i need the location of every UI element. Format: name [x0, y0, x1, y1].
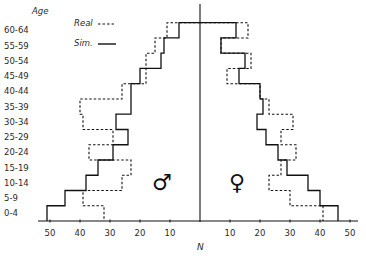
age-group-label: 60-64: [4, 25, 29, 35]
legend-real-label: Real: [74, 18, 93, 28]
age-group-label: 45-49: [4, 71, 29, 81]
age-group-label: 0-4: [4, 208, 18, 218]
age-group-label: 30-34: [4, 117, 29, 127]
age-group-label: 5-9: [4, 193, 18, 203]
age-group-label: 55-59: [4, 41, 29, 51]
age-group-label: 50-54: [4, 56, 29, 66]
age-group-label: 20-24: [4, 147, 29, 157]
age-group-label: 25-29: [4, 132, 29, 142]
female-symbol-icon: ♀: [229, 170, 245, 195]
x-axis-title: N: [197, 242, 204, 252]
x-tick-label: 30: [105, 228, 116, 238]
male-symbol-icon: ♂: [152, 170, 172, 195]
x-tick-label: 40: [75, 228, 86, 238]
female-real-step-line: [200, 23, 323, 221]
x-tick-label: 10: [225, 228, 236, 238]
male-sim-step-line: [47, 23, 200, 221]
x-tick-label: 30: [285, 228, 296, 238]
x-axis-ticks: 50403020101020304050: [45, 220, 356, 239]
x-tick-label: 20: [135, 228, 146, 238]
legend: Real Sim.: [74, 18, 116, 48]
age-group-label: 40-44: [4, 86, 29, 96]
x-tick-label: 10: [165, 228, 176, 238]
male-real-step-line: [80, 23, 200, 221]
population-pyramid-chart: Age 0-45-910-1415-1920-2425-2930-3435-39…: [0, 0, 366, 262]
age-group-label: 15-19: [4, 163, 29, 173]
legend-sim-label: Sim.: [74, 38, 93, 48]
y-axis-title: Age: [31, 6, 48, 16]
female-sim-step-line: [200, 23, 338, 221]
x-tick-label: 50: [345, 228, 356, 238]
x-tick-label: 20: [255, 228, 266, 238]
x-tick-label: 40: [315, 228, 326, 238]
age-group-label: 35-39: [4, 102, 29, 112]
age-group-label: 10-14: [4, 178, 29, 188]
age-group-labels: 0-45-910-1415-1920-2425-2930-3435-3940-4…: [4, 25, 29, 218]
x-tick-label: 50: [45, 228, 56, 238]
